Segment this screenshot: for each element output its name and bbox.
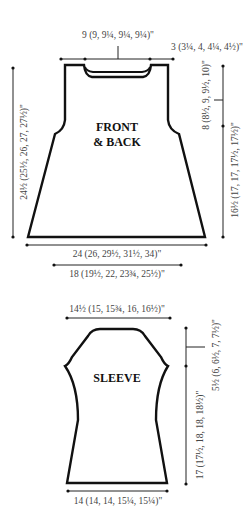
chest-width-dimension <box>52 263 182 266</box>
hem-width-dimension <box>25 243 207 246</box>
sleeve-title: SLEEVE <box>93 371 140 385</box>
cuff-width-label: 14 (14, 14, 15¼, 15¼)" <box>74 496 163 507</box>
sleeve-piece: 14½ (15, 15¾, 16, 16½)" SLEEVE 5½ (6, 6½… <box>65 304 222 507</box>
neckline-inner <box>85 67 150 72</box>
total-length-dimension <box>11 66 14 238</box>
shoulder-width-label: 3 (3¼, 4, 4¼, 4½)" <box>171 42 243 53</box>
sleeve-cap-depth-label: 5½ (6, 6½, 7, 7½)" <box>211 319 222 391</box>
front-back-title-1: FRONT <box>96 120 138 134</box>
neck-width-label: 9 (9, 9¼, 9¼, 9¼)" <box>82 30 154 41</box>
schematic-diagram: 9 (9, 9¼, 9¼, 9¼)" 3 (3¼, 4, 4¼, 4½)" FR… <box>0 0 245 532</box>
chest-width-label: 18 (19½, 22, 23¾, 25½)" <box>69 269 165 280</box>
front-back-title-2: & BACK <box>93 135 141 149</box>
neck-shoulder-dimension <box>59 46 174 61</box>
side-length-label: 16½ (17, 17, 17½, 17½)" <box>230 122 241 218</box>
sleeve-top-width-label: 14½ (15, 15¾, 16, 16½)" <box>69 304 165 315</box>
armhole-depth-label: 8 (8½, 9, 9½, 10)" <box>201 60 212 130</box>
armhole-side-dimension <box>214 64 225 238</box>
sleeve-length-label: 17 (17½, 18, 18, 18½)" <box>195 391 206 480</box>
sleeve-outline <box>65 329 168 483</box>
front-back-piece: 9 (9, 9¼, 9¼, 9¼)" 3 (3¼, 4, 4¼, 4½)" FR… <box>11 30 243 280</box>
total-length-label: 24½ (25½, 26, 27, 27½)" <box>19 104 30 200</box>
cuff-width-dimension <box>66 489 168 492</box>
sleeve-top-dimension <box>65 316 171 319</box>
hem-width-label: 24 (26, 29½, 31½, 34)" <box>73 249 162 260</box>
front-back-outline <box>28 65 205 237</box>
